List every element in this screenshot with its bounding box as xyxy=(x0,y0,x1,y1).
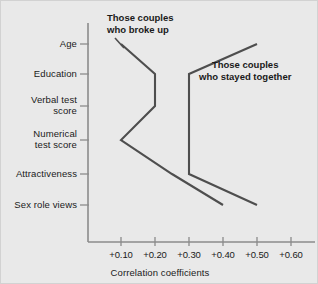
y-axis-label-verbal-test-score: Verbal test score xyxy=(1,95,77,116)
y-axis-label-sex-role-views: Sex role views xyxy=(1,200,77,211)
x-tick-label-5: +0.60 xyxy=(269,249,313,260)
y-axis-label-attractiveness: Attractiveness xyxy=(1,169,77,180)
y-axis-label-education: Education xyxy=(1,69,77,80)
y-axis-label-age: Age xyxy=(1,39,77,50)
annotation-leader-broke-up xyxy=(115,38,124,48)
y-axis-label-numerical-test-score: Numerical test score xyxy=(1,129,77,150)
annotation-stayed-together: Those couples who stayed together xyxy=(199,59,291,82)
chart-figure: Age Education Verbal test score Numerica… xyxy=(0,0,318,284)
annotation-broke-up: Those couples who broke up xyxy=(107,12,174,35)
x-axis-title: Correlation coefficients xyxy=(1,267,318,278)
